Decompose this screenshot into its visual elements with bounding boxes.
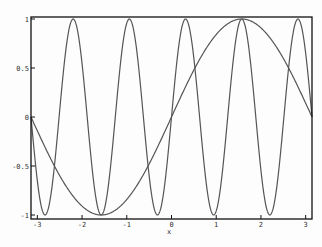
x-tick-label: 2: [259, 221, 263, 229]
x-tick-label: 3: [304, 221, 308, 229]
x-tick-label: -3: [33, 221, 41, 229]
line-chart: -3-2-10123 -1-0.500.51 x: [0, 0, 322, 247]
y-tick-label: 0.5: [16, 65, 29, 73]
y-tick-label: 1: [25, 16, 29, 24]
y-tick-label: -0.5: [12, 163, 29, 171]
x-axis-ticks: -3-2-10123: [33, 215, 308, 229]
x-tick-label: 1: [214, 221, 218, 229]
x-tick-label: -2: [78, 221, 86, 229]
series-line-1: [31, 19, 312, 215]
x-tick-label: -1: [123, 221, 131, 229]
x-axis-label: x: [167, 228, 171, 236]
y-tick-label: 0: [25, 114, 29, 122]
y-tick-label: -1: [21, 212, 29, 220]
plot-curves: [31, 19, 312, 215]
